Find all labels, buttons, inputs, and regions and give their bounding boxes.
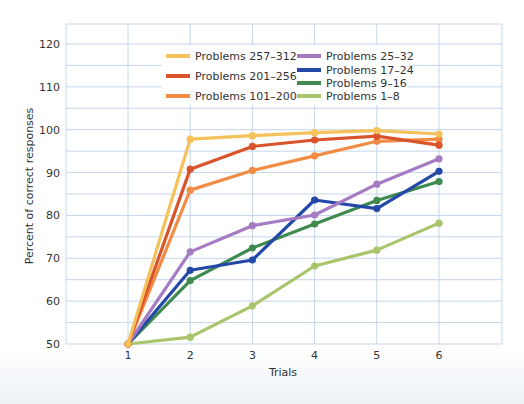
x-axis-ticks: 123456	[125, 349, 443, 362]
legend-label: Problems 25–32	[326, 50, 414, 63]
y-tick-label: 110	[39, 81, 60, 94]
data-point	[435, 155, 442, 162]
data-point	[249, 302, 256, 309]
data-point	[249, 143, 256, 150]
data-point	[311, 129, 318, 136]
legend-label: Problems 9–16	[326, 77, 407, 90]
data-point	[435, 220, 442, 227]
data-point	[249, 256, 256, 263]
x-tick-label: 5	[373, 349, 380, 362]
x-tick-label: 6	[436, 349, 443, 362]
y-tick-label: 60	[46, 295, 60, 308]
data-point	[249, 244, 256, 251]
legend-label: Problems 201–256	[195, 70, 297, 83]
data-point	[187, 136, 194, 143]
line-chart: 5060708090100110120 123456 Percent of co…	[0, 0, 524, 404]
data-point	[311, 136, 318, 143]
data-point	[435, 130, 442, 137]
x-tick-label: 4	[311, 349, 318, 362]
legend-label: Problems 101–200	[195, 90, 297, 103]
data-point	[373, 127, 380, 134]
data-point	[373, 247, 380, 254]
y-axis-ticks: 5060708090100110120	[39, 38, 60, 351]
x-tick-label: 2	[187, 349, 194, 362]
y-tick-label: 50	[46, 338, 60, 351]
legend-label: Problems 17–24	[326, 64, 414, 77]
y-tick-label: 100	[39, 124, 60, 137]
legend-label: Problems 257–312	[195, 50, 297, 63]
data-point	[311, 152, 318, 159]
legend-label: Problems 1–8	[326, 90, 400, 103]
data-point	[249, 222, 256, 229]
data-point	[187, 267, 194, 274]
data-point	[187, 277, 194, 284]
data-point	[187, 187, 194, 194]
y-tick-label: 80	[46, 209, 60, 222]
data-point	[373, 205, 380, 212]
data-point	[249, 167, 256, 174]
y-tick-label: 90	[46, 167, 60, 180]
data-point	[124, 340, 131, 347]
data-point	[373, 181, 380, 188]
x-tick-label: 1	[125, 349, 132, 362]
data-point	[311, 220, 318, 227]
data-point	[435, 168, 442, 175]
legend: Problems 257–312Problems 201–256Problems…	[162, 45, 414, 105]
data-point	[311, 262, 318, 269]
y-axis-title: Percent of correct responses	[23, 107, 36, 264]
data-point	[311, 211, 318, 218]
data-point	[187, 166, 194, 173]
data-point	[187, 248, 194, 255]
y-tick-label: 120	[39, 38, 60, 51]
data-point	[435, 178, 442, 185]
data-point	[187, 334, 194, 341]
data-point	[373, 197, 380, 204]
y-tick-label: 70	[46, 252, 60, 265]
x-axis-title: Trials	[268, 366, 297, 379]
x-tick-label: 3	[249, 349, 256, 362]
data-point	[435, 142, 442, 149]
data-point	[311, 196, 318, 203]
data-point	[249, 132, 256, 139]
